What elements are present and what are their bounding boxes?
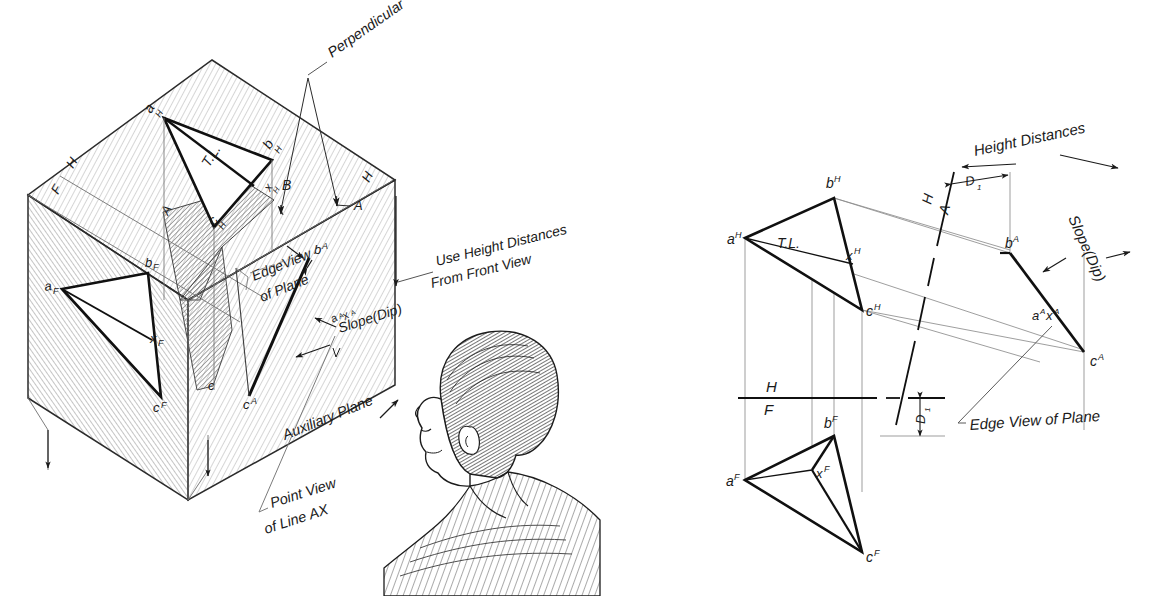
pictorial-front-x-superscript: F <box>158 338 164 348</box>
ortho-aux-edge-line <box>1000 253 1084 352</box>
fold-ha-h-label: H <box>918 191 936 206</box>
pictorial-front-a-superscript: F <box>53 286 59 296</box>
annotation-use-height-distances: Use Height Distances From Front View <box>396 196 568 291</box>
edge-view-of-plane-label: Edge View of Plane <box>969 407 1101 433</box>
point-view-line1: Point View <box>268 474 339 511</box>
d1-front-subscript: 1 <box>923 408 932 412</box>
ortho-front-x-label: x <box>815 466 823 481</box>
ortho-front-b-superscript: F <box>832 414 838 424</box>
annotation-perpendicular: Perpendicular <box>325 0 408 60</box>
pictorial-front-b-superscript: F <box>153 262 159 272</box>
pictorial-aux-c-superscript: A <box>250 396 257 406</box>
ortho-top-x-superscript: H <box>854 246 861 256</box>
ortho-aux-c-superscript: A <box>1097 352 1104 362</box>
ortho-aux-b-superscript: A <box>1012 234 1019 244</box>
fold-ha-a-label: A <box>935 203 953 217</box>
dimension-d1-aux: D 1 <box>951 173 1008 192</box>
ortho-front-c-label: c <box>866 549 873 565</box>
d1-aux-subscript: 1 <box>977 183 981 192</box>
ortho-aux-b-label: b <box>1005 235 1013 251</box>
height-distances-label: Height Distances <box>972 119 1087 159</box>
ortho-top-view-triangle <box>745 198 862 310</box>
observer-head <box>384 331 600 596</box>
slope-dip-label-ortho: Slope(Dip) <box>1065 212 1109 284</box>
ortho-front-b-label: b <box>824 415 832 431</box>
d1-front-label: D <box>913 415 928 424</box>
pictorial-front-b-label: b <box>145 255 152 270</box>
ortho-aux-x-superscript: A <box>1053 307 1059 316</box>
fold-hf-h-label: H <box>766 378 777 395</box>
ortho-aux-a-label: a <box>1032 308 1039 323</box>
figure-canvas: H F A H A a H b H c H T.L. x H B a F b F… <box>0 0 1159 596</box>
dimension-d1-front: D 1 <box>880 398 945 436</box>
annotation-slope-dip-ortho: Slope(Dip) <box>1043 212 1130 284</box>
ortho-top-a-superscript: H <box>735 230 742 240</box>
ortho-top-a-label: a <box>727 231 735 247</box>
ortho-top-c-label: c <box>866 303 873 319</box>
pictorial-fold-a-right: A <box>353 198 363 213</box>
ortho-aux-a-superscript: A <box>1039 307 1045 316</box>
pictorial-front-c-label: c <box>153 400 160 415</box>
ortho-front-x-superscript: F <box>824 464 830 474</box>
perpendicular-label: Perpendicular <box>325 0 408 60</box>
ortho-top-tl-label: T.L. <box>777 235 800 251</box>
ortho-aux-x-label: x <box>1045 308 1053 323</box>
ortho-aux-c-label: c <box>1090 353 1097 369</box>
ortho-top-c-superscript: H <box>874 302 881 312</box>
pictorial-aux-b-label: b <box>314 242 321 257</box>
annotation-height-distances: Height Distances <box>962 119 1118 168</box>
pictorial-front-c-superscript: F <box>161 400 167 410</box>
ortho-front-a-superscript: F <box>734 472 740 482</box>
orthographic-layout: a H b H x H c H T.L. H F D 1 a <box>726 119 1130 565</box>
technical-drawing: H F A H A a H b H c H T.L. x H B a F b F… <box>0 0 1159 596</box>
ortho-front-a-label: a <box>726 473 734 489</box>
d1-aux-label: D <box>964 173 976 189</box>
pictorial-front-x-label: x <box>149 331 157 346</box>
ortho-top-b-superscript: H <box>834 174 841 184</box>
fold-hf-f-label: F <box>764 401 774 418</box>
pictorial-aux-b-superscript: A <box>321 241 328 251</box>
pictorial-aux-c-label: c <box>243 397 250 412</box>
ortho-top-b-label: b <box>826 175 834 191</box>
ortho-front-c-superscript: F <box>874 548 880 558</box>
ortho-front-view-triangle <box>745 436 862 552</box>
pictorial-top-b-mark-label: B <box>282 177 291 193</box>
ortho-top-x-label: x <box>845 248 853 263</box>
